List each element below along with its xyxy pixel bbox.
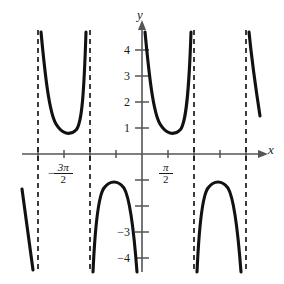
curve-branch-right-lower-inverted bbox=[197, 182, 241, 272]
fraction-numerator: π bbox=[161, 162, 171, 173]
x-axis bbox=[22, 150, 268, 158]
y-tick-label-1: 1 bbox=[110, 122, 130, 134]
plot-canvas bbox=[0, 0, 284, 284]
x-axis-arrowhead bbox=[258, 150, 268, 158]
fraction-numerator: 3π bbox=[56, 162, 71, 173]
curve-branch-left-partial-lower bbox=[22, 189, 33, 270]
curve-branch-left-upper-u bbox=[41, 32, 86, 133]
y-tick-label-minus-3: −3 bbox=[104, 226, 130, 238]
x-tick-label-neg-three-pi-over-two: − 3π 2 bbox=[48, 162, 71, 185]
fraction-denominator: 2 bbox=[54, 173, 73, 185]
curve-branch-right-partial-upper bbox=[249, 32, 260, 116]
fraction-pi-over-two: π 2 bbox=[161, 162, 171, 185]
x-tick-label-pi-over-two: π 2 bbox=[160, 162, 171, 185]
y-axis bbox=[138, 20, 146, 272]
y-axis-label: y bbox=[137, 8, 143, 21]
fraction-neg-three-pi-over-two: 3π 2 bbox=[56, 162, 71, 185]
x-tick-label-neg-three-pi-over-two-sign: − bbox=[48, 167, 56, 179]
sec-curve bbox=[22, 32, 260, 272]
y-tick-label-minus-4: −4 bbox=[104, 252, 130, 264]
sec-function-graph-figure: y x 4 3 2 1 −3 −4 − 3π 2 π 2 bbox=[0, 0, 284, 284]
curve-branch-center-upper-u bbox=[145, 32, 191, 133]
y-tick-label-4: 4 bbox=[110, 44, 130, 56]
x-axis-label: x bbox=[268, 143, 274, 156]
y-tick-label-2: 2 bbox=[110, 96, 130, 108]
fraction-denominator: 2 bbox=[159, 173, 173, 185]
y-tick-label-3: 3 bbox=[110, 70, 130, 82]
